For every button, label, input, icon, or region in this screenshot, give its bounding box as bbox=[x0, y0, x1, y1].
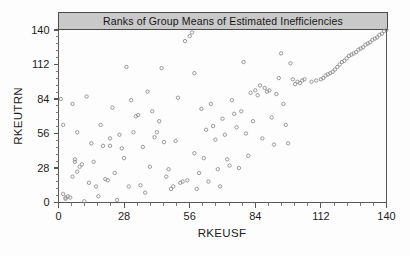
x-tick-label: 0 bbox=[55, 210, 61, 222]
y-tick-label: 140 bbox=[31, 24, 49, 36]
scatter-point bbox=[176, 96, 179, 99]
scatter-point bbox=[71, 102, 74, 105]
scatter-point bbox=[127, 185, 130, 188]
scatter-point bbox=[146, 90, 149, 93]
scatter-point bbox=[172, 185, 175, 188]
scatter-point bbox=[122, 156, 125, 159]
scatter-point bbox=[286, 142, 289, 145]
scatter-point bbox=[247, 154, 250, 157]
axes bbox=[59, 30, 387, 203]
scatter-point bbox=[230, 99, 233, 102]
scatter-point bbox=[279, 52, 282, 55]
scatter-point bbox=[97, 195, 100, 198]
scatter-point bbox=[155, 131, 158, 134]
scatter-point bbox=[153, 136, 156, 139]
scatter-point bbox=[256, 94, 259, 97]
scatter-point bbox=[139, 184, 142, 187]
scatter-point bbox=[143, 191, 146, 194]
scatter-point bbox=[160, 67, 163, 70]
scatter-point bbox=[275, 92, 278, 95]
y-tick-label: 56 bbox=[37, 127, 49, 139]
scatter-point bbox=[211, 124, 214, 127]
scatter-point bbox=[115, 198, 118, 201]
scatter-point bbox=[263, 86, 266, 89]
scatter-point bbox=[261, 137, 264, 140]
scatter-point bbox=[92, 160, 95, 163]
scatter-point bbox=[277, 76, 280, 79]
scatter-point bbox=[254, 89, 257, 92]
x-axis-title: RKEUSF bbox=[198, 227, 246, 239]
scatter-point bbox=[289, 62, 292, 65]
scatter-point bbox=[59, 97, 62, 100]
scatter-point bbox=[186, 179, 189, 182]
y-tick-label: 0 bbox=[43, 196, 49, 208]
scatter-point bbox=[141, 145, 144, 148]
scatter-point bbox=[270, 116, 273, 119]
scatter-point bbox=[216, 168, 219, 171]
scatter-point bbox=[310, 80, 313, 83]
x-tick-label: 84 bbox=[249, 210, 261, 222]
scatter-point bbox=[61, 123, 64, 126]
y-tick-label: 84 bbox=[37, 93, 49, 105]
scatter-point bbox=[282, 102, 285, 105]
scatter-point bbox=[162, 140, 165, 143]
scatter-point bbox=[87, 181, 90, 184]
scatter-point bbox=[233, 112, 236, 115]
scatter-point bbox=[251, 119, 254, 122]
x-axis-ticks bbox=[59, 203, 387, 208]
scatter-point bbox=[80, 163, 83, 166]
x-tick-label: 112 bbox=[312, 210, 330, 222]
scatter-point bbox=[183, 39, 186, 42]
scatter-markers bbox=[59, 28, 388, 203]
scatter-point bbox=[90, 142, 93, 145]
x-tick-label: 56 bbox=[184, 210, 196, 222]
scatter-point bbox=[315, 79, 318, 82]
scatter-point bbox=[113, 171, 116, 174]
scatter-point bbox=[209, 102, 212, 105]
scatter-point bbox=[221, 117, 224, 120]
y-tick-label: 112 bbox=[32, 58, 50, 70]
plot-canvas: Ranks of Group Means of Estimated Ineffi… bbox=[0, 0, 410, 256]
scatter-point bbox=[151, 110, 154, 113]
scatter-point bbox=[244, 132, 247, 135]
scatter-point bbox=[111, 106, 114, 109]
scatter-point bbox=[291, 78, 294, 81]
scatter-point bbox=[284, 123, 287, 126]
scatter-point bbox=[61, 192, 64, 195]
scatter-point bbox=[202, 156, 205, 159]
scatter-point bbox=[204, 128, 207, 131]
scatter-point bbox=[249, 91, 252, 94]
scatter-point bbox=[120, 147, 123, 150]
scatter-point bbox=[242, 60, 245, 63]
x-tick-label: 28 bbox=[118, 210, 130, 222]
scatter-point bbox=[190, 31, 193, 34]
scatter-plot-figure: Ranks of Group Means of Estimated Ineffi… bbox=[0, 0, 410, 256]
scatter-point bbox=[167, 168, 170, 171]
scatter-point bbox=[129, 99, 132, 102]
scatter-point bbox=[272, 143, 275, 146]
chart-title-box: Ranks of Group Means of Estimated Ineffi… bbox=[59, 13, 388, 30]
scatter-point bbox=[108, 137, 111, 140]
x-axis-tick-labels: 0285684112140 bbox=[55, 210, 395, 222]
scatter-point bbox=[188, 34, 191, 37]
scatter-point bbox=[132, 131, 135, 134]
scatter-point bbox=[94, 185, 97, 188]
scatter-point bbox=[165, 175, 168, 178]
scatter-point bbox=[108, 144, 111, 147]
scatter-point bbox=[223, 133, 226, 136]
scatter-point bbox=[76, 170, 79, 173]
x-tick-label: 140 bbox=[377, 210, 395, 222]
scatter-point bbox=[225, 158, 228, 161]
scatter-point bbox=[148, 165, 151, 168]
y-axis-tick-labels: 0285684112140 bbox=[31, 24, 49, 209]
scatter-point bbox=[125, 65, 128, 68]
scatter-point bbox=[228, 164, 231, 167]
scatter-point bbox=[193, 152, 196, 155]
y-axis-ticks bbox=[54, 30, 59, 203]
scatter-point bbox=[76, 131, 79, 134]
scatter-point bbox=[99, 123, 102, 126]
scatter-point bbox=[218, 185, 221, 188]
scatter-point bbox=[240, 110, 243, 113]
scatter-point bbox=[118, 133, 121, 136]
scatter-point bbox=[237, 166, 240, 169]
